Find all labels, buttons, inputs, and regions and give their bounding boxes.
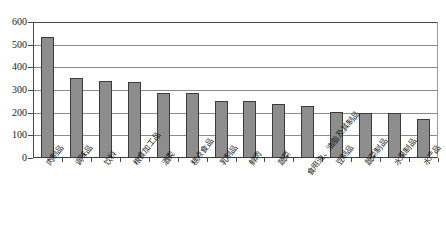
x-axis-labels: 肉制品调味品饮料粮食加工品酒类糕点食品乳制品鲜肉蔬菜食用油、油脂及其制品豆制品蔬… — [0, 160, 446, 247]
y-axis-tick-label: 100 — [12, 130, 27, 140]
bar — [215, 101, 228, 158]
bar — [41, 37, 54, 158]
bar — [99, 81, 112, 158]
y-axis-tick-label: 300 — [12, 85, 27, 95]
bar — [186, 93, 199, 158]
y-axis-tick-label: 400 — [12, 62, 27, 72]
bars-layer — [33, 22, 438, 158]
bar — [272, 104, 285, 158]
y-axis-tick-label: 600 — [12, 17, 27, 27]
bar — [128, 82, 141, 158]
y-axis: 0100200300400500600 — [0, 0, 33, 182]
y-axis-tick-label: 200 — [12, 108, 27, 118]
bar — [157, 93, 170, 158]
bar — [301, 106, 314, 158]
y-axis-tick-label: 500 — [12, 40, 27, 50]
bar-chart: 0100200300400500600 肉制品调味品饮料粮食加工品酒类糕点食品乳… — [0, 0, 446, 247]
bar — [70, 78, 83, 158]
bar — [243, 101, 256, 158]
